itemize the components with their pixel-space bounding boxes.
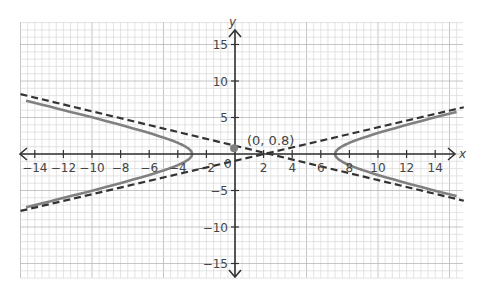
x-tick-label: −8: [112, 161, 130, 175]
y-tick-label: −10: [203, 221, 228, 235]
point-label: (0, 0.8): [247, 133, 294, 148]
x-axis-label: x: [458, 147, 467, 161]
x-tick-label: −2: [198, 161, 216, 175]
x-tick-label: 2: [260, 161, 268, 175]
origin-label: 0: [224, 157, 232, 171]
x-tick-label: 10: [370, 161, 385, 175]
axes: [20, 30, 455, 277]
y-tick-label: −15: [203, 257, 228, 271]
y-tick-label: 10: [213, 75, 228, 89]
y-tick-label: 5: [220, 111, 228, 125]
x-tick-label: −10: [79, 161, 104, 175]
x-tick-label: −12: [51, 161, 76, 175]
hyperbola-chart: −14−12−10−8−6−4−2246810121415105−5−10−15…: [0, 0, 479, 293]
x-tick-label: 14: [428, 161, 443, 175]
x-tick-label: 8: [346, 161, 354, 175]
y-tick-label: −5: [210, 184, 228, 198]
y-intercept-point: [230, 144, 238, 152]
x-tick-label: 12: [399, 161, 414, 175]
x-tick-label: −14: [22, 161, 47, 175]
y-axis-label: y: [228, 15, 237, 29]
grid: [20, 22, 463, 278]
x-tick-label: −4: [169, 161, 187, 175]
y-tick-label: 15: [213, 38, 228, 52]
x-tick-label: −6: [140, 161, 158, 175]
x-tick-label: 6: [317, 161, 325, 175]
x-tick-label: 4: [288, 161, 296, 175]
